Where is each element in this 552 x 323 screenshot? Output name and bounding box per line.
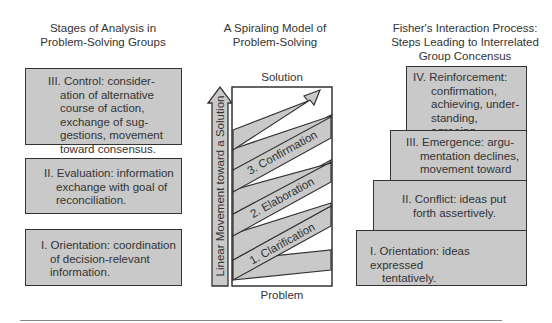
- step-conflict-label: II. Conflict: ideas put: [402, 193, 524, 207]
- right-panel-title: Fisher's Interaction Process: Steps Lead…: [380, 21, 550, 63]
- step-orientation-box: I. Orientation: ideas expressed tentativ…: [356, 230, 527, 286]
- step-conflict-line: forth assertively.: [413, 207, 524, 221]
- right-title-line1: Fisher's Interaction Process:: [380, 21, 550, 35]
- step-emergence-label: III. Emergence: argu-: [406, 136, 524, 150]
- step-reinforcement-box: IV. Reinforcement: confirmation, achievi…: [406, 66, 527, 132]
- right-title-line3: Group Concensus: [380, 49, 550, 63]
- step-reinforcement-line: confirmation,: [431, 85, 524, 99]
- step-orientation-line: tentatively.: [382, 272, 524, 286]
- step-emergence-line: movement toward: [420, 163, 524, 177]
- step-emergence-box: III. Emergence: argu- mentation declines…: [390, 130, 527, 182]
- step-reinforcement-label: IV. Reinforcement:: [413, 71, 524, 85]
- right-title-line2: Steps Leading to Interrelated: [380, 35, 550, 49]
- step-conflict-box: II. Conflict: ideas put forth assertivel…: [373, 180, 527, 232]
- step-orientation-label: I. Orientation: ideas expressed: [370, 245, 524, 272]
- step-emergence-line: mentation declines,: [420, 150, 524, 164]
- bottom-divider: [20, 320, 502, 321]
- linear-movement-label: Linear Movement toward a Solution: [214, 96, 226, 277]
- step-reinforcement-line: achieving, under-: [431, 98, 524, 112]
